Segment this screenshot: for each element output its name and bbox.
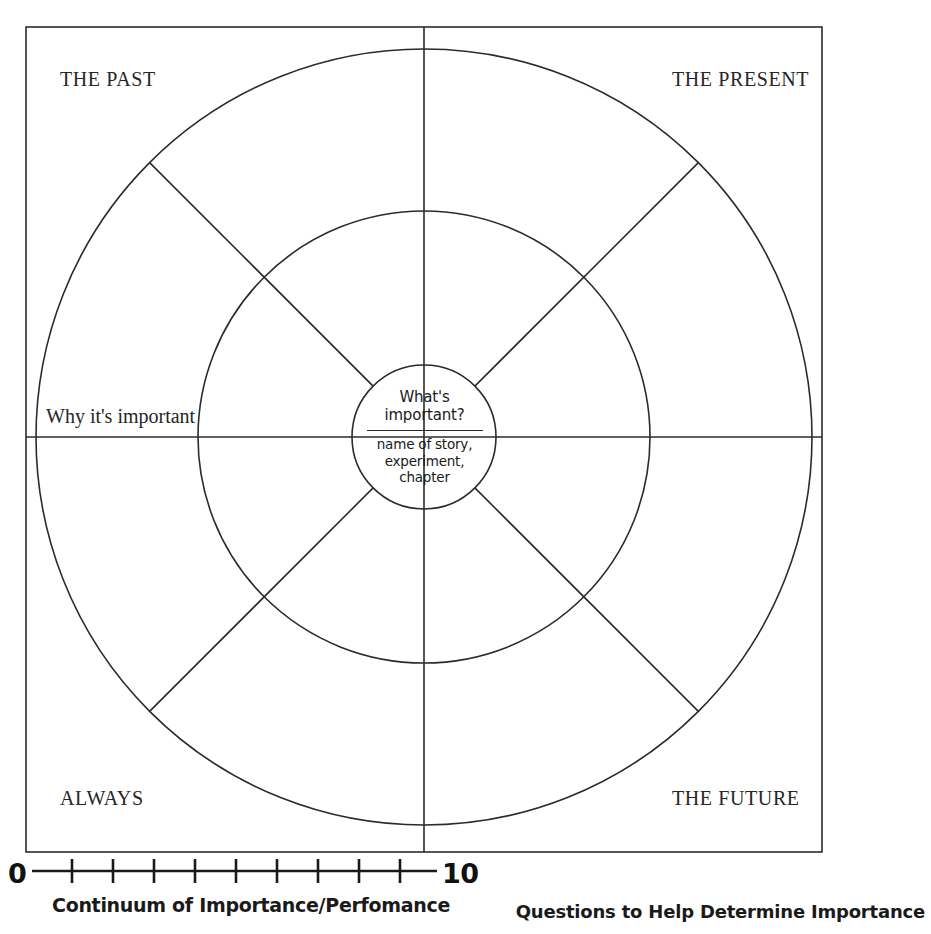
center-prompt: What's important? [384,389,464,429]
quadrant-label-always: ALWAYS [60,787,144,810]
center-subject: name of story, experiment, chapter [377,436,473,485]
axis-label-why-its-important: Why it's important [44,405,197,428]
center-subject-line-1: name of story, [377,436,473,452]
center-divider-rule [367,430,483,431]
concentric-circle-diagram: THE PAST THE PRESENT ALWAYS THE FUTURE W… [0,0,931,934]
continuum-caption: Continuum of Importance/Perfomance [52,894,450,916]
diagonal-lower-right [475,488,699,712]
footer-caption: Questions to Help Determine Importance [516,901,925,922]
diagonal-upper-left [150,163,374,387]
scale-max-label: 10 [442,858,479,889]
center-circle-content: What's important? name of story, experim… [353,366,496,509]
diagonal-lower-left [150,488,374,712]
diagonal-upper-right [475,163,699,387]
center-subject-line-2: experiment, [377,453,473,469]
center-prompt-line-1: What's [384,389,464,407]
scale-min-label: 0 [8,858,26,889]
quadrant-label-future: THE FUTURE [672,787,800,810]
quadrant-label-present: THE PRESENT [672,68,809,91]
quadrant-label-past: THE PAST [60,68,156,91]
center-subject-line-3: chapter [377,469,473,485]
center-prompt-line-2: important? [384,407,464,425]
